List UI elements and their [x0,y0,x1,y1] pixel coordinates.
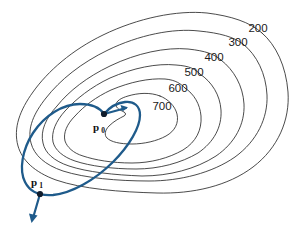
contour-map-figure: 200 300 400 500 600 700 p 0 p 1 [0,0,302,234]
gradient-arrow-p1 [29,194,40,223]
contour-label-300: 300 [228,36,247,48]
point-label-p0-base: p [93,121,99,133]
point-marker-p0 [101,111,107,117]
contour-map-svg: 200 300 400 500 600 700 p 0 p 1 [0,0,302,234]
contour-label-400: 400 [204,51,223,63]
contour-line-400 [42,49,244,176]
point-marker-p1 [37,191,43,197]
contour-line-500 [53,65,222,169]
point-label-p1-base: p [31,176,37,188]
point-label-p0: p 0 [93,121,105,135]
contour-label-500: 500 [184,66,203,78]
contour-label-700: 700 [152,100,171,112]
point-label-p0-subscript: 0 [101,126,105,135]
contour-label-200: 200 [248,22,267,34]
point-label-p1-subscript: 1 [39,181,43,190]
contour-label-600: 600 [168,82,187,94]
point-label-p1: p 1 [31,176,43,190]
